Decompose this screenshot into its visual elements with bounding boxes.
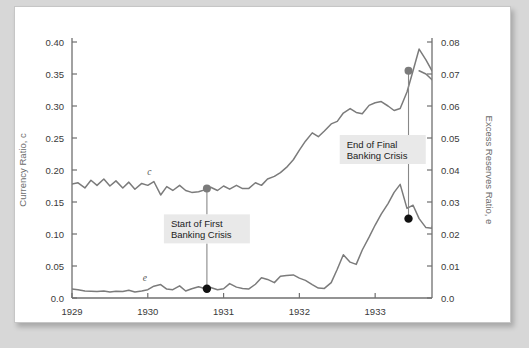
annotation-start-first-banking-crisis: Start of FirstBanking Crisis <box>164 185 250 293</box>
y-axis-right-tick-label: 0.05 <box>441 133 460 144</box>
line-chart-svg: 0.00.050.100.150.200.250.300.350.400.00.… <box>0 0 529 348</box>
y-axis-left-tick-label: 0.35 <box>46 69 65 80</box>
x-axis-tick-label: 1931 <box>213 306 234 317</box>
y-axis-left-tick-label: 0.30 <box>46 101 65 112</box>
y-axis-left-tick-label: 0.25 <box>46 133 65 144</box>
series-label-c: c <box>147 167 152 177</box>
x-axis-tick-label: 1930 <box>137 306 158 317</box>
y-axis-left-tick-label: 0.15 <box>46 197 65 208</box>
series-line-c <box>72 49 432 195</box>
y-axis-right-tick-label: 0.0 <box>441 293 454 304</box>
y-axis-left-tick-label: 0.0 <box>51 293 64 304</box>
annotation-marker-lower <box>404 214 412 222</box>
y-axis-left-tick-label: 0.20 <box>46 165 65 176</box>
annotation-text-line2: Banking Crisis <box>171 229 232 240</box>
y-axis-right-tick-label: 0.02 <box>441 229 460 240</box>
annotation-marker-upper <box>405 67 413 75</box>
y-axis-right-tick-label: 0.07 <box>441 69 460 80</box>
y-axis-left-title: Currency Ratio, c <box>17 133 28 207</box>
series-line-e <box>72 184 432 292</box>
y-axis-left-tick-label: 0.10 <box>46 229 65 240</box>
x-axis-tick-label: 1933 <box>365 306 386 317</box>
y-axis-right-tick-label: 0.06 <box>441 101 460 112</box>
y-axis-left-tick-label: 0.05 <box>46 261 65 272</box>
y-axis-right-title: Excess Reserves Ratio, e <box>484 116 495 225</box>
annotation-text-line2: Banking Crisis <box>347 150 408 161</box>
annotation-text-line1: Start of First <box>171 218 223 229</box>
y-axis-right-tick-label: 0.03 <box>441 197 460 208</box>
annotation-marker-upper <box>203 185 211 193</box>
annotation-marker-lower <box>203 285 211 293</box>
x-axis-tick-label: 1932 <box>289 306 310 317</box>
series-group <box>72 49 451 292</box>
y-axis-right-tick-label: 0.08 <box>441 37 460 48</box>
annotation-text-line1: End of Final <box>347 139 398 150</box>
y-axis-right-tick-label: 0.01 <box>441 261 460 272</box>
figure-root: 0.00.050.100.150.200.250.300.350.400.00.… <box>0 0 529 348</box>
series-label-e: e <box>143 273 147 283</box>
x-axis-tick-label: 1929 <box>61 306 82 317</box>
y-axis-right-tick-label: 0.04 <box>441 165 460 176</box>
annotation-end-final-banking-crisis: End of FinalBanking Crisis <box>340 67 426 223</box>
y-axis-left-tick-label: 0.40 <box>46 37 65 48</box>
chart-canvas: 0.00.050.100.150.200.250.300.350.400.00.… <box>0 0 529 348</box>
series-line-e_tail <box>432 132 451 229</box>
